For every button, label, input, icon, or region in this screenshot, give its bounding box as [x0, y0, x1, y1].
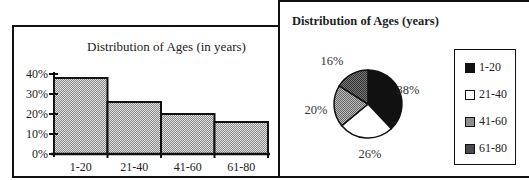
pie-legend: 1-2021-4041-6061-80: [454, 49, 516, 165]
pie-slice-label: 38%: [397, 83, 420, 97]
legend-swatch: [465, 144, 475, 154]
x-tick-label: 1-20: [70, 160, 92, 174]
bar-61-80: [215, 122, 269, 154]
legend-item: 21-40: [465, 87, 507, 102]
x-tick-label: 41-60: [174, 160, 202, 174]
y-tick-label: 10%: [26, 127, 48, 141]
pie-slice-label: 26%: [359, 147, 382, 161]
legend-label: 61-80: [479, 141, 507, 156]
y-tick-label: 0%: [32, 147, 48, 161]
legend-label: 21-40: [479, 87, 507, 102]
pie-slice-label: 16%: [321, 54, 344, 68]
pie-chart-panel: Distribution of Ages (years) 38%26%20%16…: [278, 0, 529, 178]
bar-chart-panel: Distribution of Ages (in years) 1-2021-4…: [12, 25, 280, 178]
legend-item: 41-60: [465, 114, 507, 129]
legend-item: 61-80: [465, 141, 507, 156]
y-tick-label: 40%: [26, 67, 48, 81]
legend-item: 1-20: [465, 60, 501, 75]
y-tick-label: 30%: [26, 87, 48, 101]
legend-swatch: [465, 90, 475, 100]
bar-21-40: [108, 102, 162, 154]
legend-swatch: [465, 117, 475, 127]
legend-swatch: [465, 63, 475, 73]
pie-slice-label: 20%: [305, 103, 328, 117]
x-tick-label: 61-80: [227, 160, 255, 174]
bar-1-20: [54, 78, 108, 154]
bar-chart-plot: 1-2021-4041-6061-800%10%20%30%40%: [14, 27, 280, 177]
legend-label: 41-60: [479, 114, 507, 129]
bar-41-60: [161, 114, 215, 154]
legend-label: 1-20: [479, 60, 501, 75]
x-tick-label: 21-40: [120, 160, 148, 174]
y-tick-label: 20%: [26, 107, 48, 121]
